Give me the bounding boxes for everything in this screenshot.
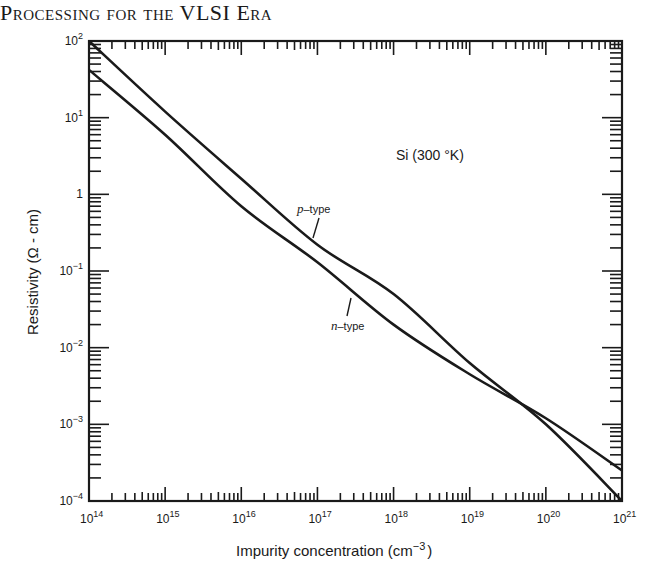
p-type-label: p–type — [296, 201, 330, 216]
y-tick-label: 10−1 — [59, 261, 83, 278]
data-curves — [89, 41, 622, 501]
y-tick-label: 101 — [65, 108, 83, 125]
y-tick-label: 102 — [65, 31, 83, 48]
y-tick-label: 10−4 — [59, 491, 83, 508]
y-tick-labels: 102101110−110−210−310−4 — [59, 31, 83, 508]
x-tick-label: 1017 — [308, 509, 331, 526]
y-tick-label: 10−2 — [59, 338, 83, 355]
x-tick-label: 1018 — [385, 509, 408, 526]
y-tick-label: 10−3 — [59, 414, 83, 431]
p-type-curve — [89, 41, 622, 501]
resistivity-chart: 10141015101610171018101910201021 1021011… — [0, 0, 650, 570]
p-type-leader — [313, 218, 319, 238]
x-tick-labels: 10141015101610171018101910201021 — [80, 509, 636, 526]
n-type-label: n–type — [331, 318, 364, 333]
axis-ticks — [89, 41, 622, 501]
n-type-leader — [347, 298, 351, 316]
x-tick-label: 1019 — [461, 509, 484, 526]
plot-frame — [89, 41, 622, 501]
x-tick-label: 1015 — [156, 509, 179, 526]
x-tick-label: 1016 — [232, 509, 255, 526]
y-axis-title: Resistivity (Ω - cm) — [24, 209, 41, 335]
x-axis-title: Impurity concentration (cm−3) — [236, 540, 432, 559]
x-tick-label: 1020 — [537, 509, 560, 526]
x-tick-label: 1021 — [613, 509, 636, 526]
x-tick-label: 1014 — [80, 509, 103, 526]
y-tick-label: 1 — [76, 187, 83, 201]
material-label: Si (300 °K) — [396, 147, 464, 163]
